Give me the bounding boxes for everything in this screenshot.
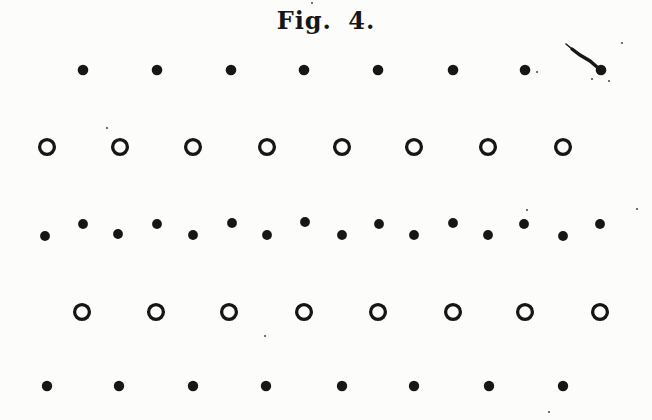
filled-dot [261,381,271,391]
ink-smudge-stroke [572,49,597,67]
filled-dot [520,65,531,76]
open-circle [149,305,164,320]
filled-dot [227,218,237,228]
filled-dot [262,230,272,240]
filled-dot [558,231,568,241]
filled-dot [114,381,124,391]
filled-dot [484,381,494,391]
filled-dot [78,219,88,229]
open-circle [335,140,350,155]
figure-page: Fig. 4. [0,0,652,420]
open-circle [186,140,201,155]
filled-dot [113,229,123,239]
filled-dot [40,231,50,241]
filled-dot [595,219,605,229]
filled-dot [42,381,52,391]
filled-dot [448,65,459,76]
ink-speck [536,71,538,73]
ink-speck [106,127,108,129]
ink-speck [526,209,528,211]
filled-dot [78,65,89,76]
open-circle [593,305,608,320]
open-circle [556,140,571,155]
filled-dot [152,65,163,76]
filled-dot [337,230,347,240]
open-circle [75,305,90,320]
open-circle [222,305,237,320]
filled-dot [519,219,529,229]
ink-speck [311,2,313,4]
ink-speck [548,411,550,413]
ink-speck [608,80,610,82]
open-circle [371,305,386,320]
filled-dot [299,65,310,76]
ink-speck [264,335,266,337]
filled-dot [483,230,493,240]
filled-dot [558,381,568,391]
filled-dot [337,381,347,391]
open-circle [113,140,128,155]
filled-dot [152,219,162,229]
open-circle [297,305,312,320]
ink-speck [636,208,638,210]
filled-dot [448,218,458,228]
ink-speck [591,78,593,80]
filled-dot [373,65,384,76]
filled-dot [188,230,198,240]
filled-dot [374,219,384,229]
open-circle [40,140,55,155]
filled-dot [226,65,237,76]
open-circle [446,305,461,320]
open-circle [260,140,275,155]
ink-smudge-barb [566,44,572,49]
open-circle [481,140,496,155]
open-circle [518,305,533,320]
filled-dot [300,217,310,227]
filled-dot [188,381,198,391]
lattice-canvas [0,0,652,420]
filled-dot [409,230,419,240]
ink-speck [621,42,623,44]
open-circle [407,140,422,155]
filled-dot [409,381,419,391]
